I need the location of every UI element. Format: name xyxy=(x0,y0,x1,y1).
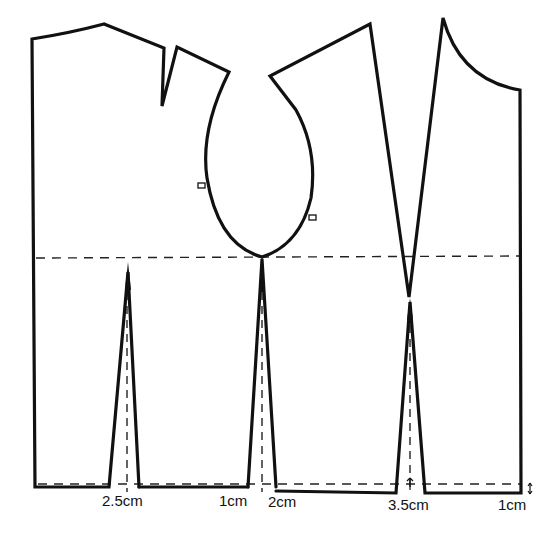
back-dart-tip xyxy=(125,262,131,290)
centre-front-measure-arrow xyxy=(528,483,532,494)
bust-guide-line xyxy=(36,256,520,258)
back-bodice-outline xyxy=(32,24,262,487)
front-armhole-notch xyxy=(309,215,316,220)
front-dart-label: 3.5cm xyxy=(388,497,429,512)
back-dart-label: 2.5cm xyxy=(102,493,143,508)
side-front-label: 2cm xyxy=(268,494,296,509)
centre-front-label: 1cm xyxy=(498,497,526,512)
back-armhole-notch xyxy=(198,183,205,188)
side-back-label: 1cm xyxy=(219,493,247,508)
pattern-diagram xyxy=(0,0,555,539)
front-bodice-outline xyxy=(262,18,521,493)
